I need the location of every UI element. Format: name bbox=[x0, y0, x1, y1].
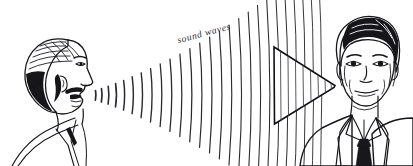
listener-necktie bbox=[356, 139, 372, 166]
sound-waves-illustration: sound waves bbox=[0, 0, 413, 166]
listener-pupil-right bbox=[378, 61, 383, 67]
listener-pupil-left bbox=[351, 61, 356, 67]
illustration-canvas: sound waves bbox=[0, 0, 413, 166]
speaker-pupil bbox=[80, 63, 83, 66]
